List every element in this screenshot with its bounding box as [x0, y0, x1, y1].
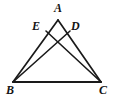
- vertex-label-e: E: [32, 20, 40, 32]
- vertex-label-a: A: [54, 2, 62, 14]
- segment-cevian-db: [13, 31, 70, 82]
- vertex-label-c: C: [99, 84, 107, 96]
- geometry-figure: A E D B C: [0, 0, 117, 99]
- vertex-label-d: D: [71, 20, 80, 32]
- segment-cevian-ec: [46, 31, 101, 82]
- vertex-label-b: B: [6, 84, 14, 96]
